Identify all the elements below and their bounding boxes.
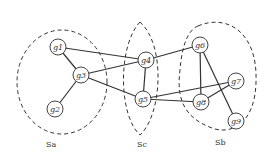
node-g6: g6 xyxy=(192,37,208,53)
node-g4: g4 xyxy=(138,52,154,68)
edge-g6-g8 xyxy=(200,45,201,102)
edge-g3-g5 xyxy=(81,75,143,99)
set-label-sb: Sb xyxy=(215,138,226,147)
node-label: g8 xyxy=(196,98,206,107)
node-label: g1 xyxy=(53,43,63,52)
set-label-sc: Sc xyxy=(137,140,147,149)
node-g8: g8 xyxy=(193,94,209,110)
node-label: g7 xyxy=(231,77,242,86)
node-g9: g9 xyxy=(228,113,244,129)
node-g5: g5 xyxy=(135,91,151,107)
node-label: g6 xyxy=(195,41,205,50)
node-label: g3 xyxy=(76,71,86,80)
node-label: g9 xyxy=(231,117,241,126)
set-sc-boundary xyxy=(124,22,159,135)
edge-g3-g4 xyxy=(81,60,146,75)
edge-g5-g8 xyxy=(143,99,201,102)
node-group: g1g2g3g4g5g6g7g8g9 xyxy=(47,37,244,129)
set-sb-boundary xyxy=(179,22,256,130)
node-label: g2 xyxy=(50,105,60,114)
node-g2: g2 xyxy=(47,101,63,117)
graph-diagram: g1g2g3g4g5g6g7g8g9 Sa Sc Sb xyxy=(0,0,273,157)
node-label: g5 xyxy=(138,95,148,104)
node-label: g4 xyxy=(141,56,151,65)
node-g3: g3 xyxy=(73,67,89,83)
node-g1: g1 xyxy=(50,39,66,55)
set-label-sa: Sa xyxy=(46,140,56,149)
node-g7: g7 xyxy=(228,73,244,89)
